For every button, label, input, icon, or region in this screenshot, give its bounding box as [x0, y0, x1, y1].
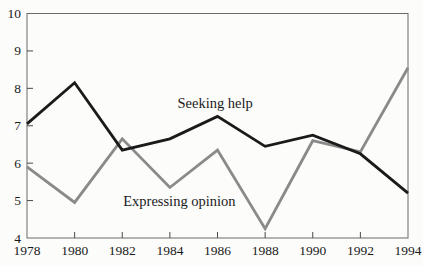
- x-axis-label: 1992: [347, 243, 374, 258]
- chart-background: [0, 0, 423, 266]
- y-axis-label: 5: [14, 193, 21, 208]
- y-axis-label: 8: [14, 81, 21, 96]
- x-axis-label: 1990: [299, 243, 326, 258]
- x-axis-label: 1994: [395, 243, 422, 258]
- line-chart: 4567891019781980198219841986198819901992…: [0, 0, 423, 266]
- y-axis-label: 6: [14, 156, 21, 171]
- series-label-seeking-help: Seeking help: [177, 95, 252, 111]
- y-axis-label: 9: [14, 43, 21, 58]
- line-chart-svg: 4567891019781980198219841986198819901992…: [0, 0, 423, 266]
- x-axis-label: 1980: [61, 243, 88, 258]
- x-axis-label: 1988: [252, 243, 279, 258]
- x-axis-label: 1986: [204, 243, 231, 258]
- y-axis-label: 10: [8, 6, 22, 21]
- series-label-expressing-opinion: Expressing opinion: [123, 193, 236, 209]
- x-axis-label: 1984: [156, 243, 183, 258]
- y-axis-label: 7: [14, 118, 21, 133]
- x-axis-label: 1982: [109, 243, 136, 258]
- x-axis-label: 1978: [14, 243, 41, 258]
